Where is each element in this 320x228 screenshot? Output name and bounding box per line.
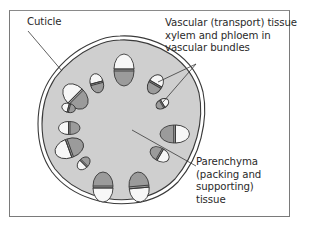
cuticle-label: Cuticle: [27, 16, 61, 29]
vascular-bundle: [93, 172, 113, 202]
vascular-bundle: [114, 54, 134, 86]
cuticle-leader: [28, 31, 62, 71]
vascular-tissue-label: Vascular (transport) tissue – xylem and …: [165, 17, 298, 55]
parenchyma-label: Parenchyma (packing and supporting) tiss…: [196, 156, 261, 206]
vascular-bundle: [160, 125, 190, 143]
vascular-bundle: [59, 122, 81, 135]
